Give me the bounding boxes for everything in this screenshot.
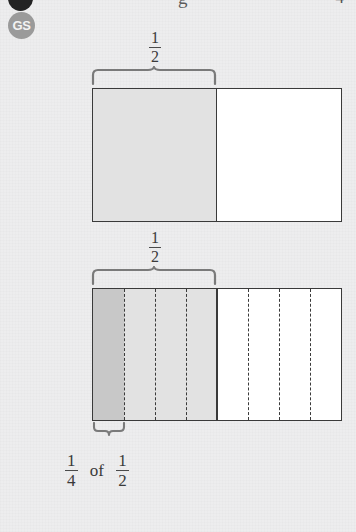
divider-dashed-4 (248, 289, 249, 420)
diagram-2-brace (91, 266, 219, 286)
fraction-denominator: 4 (65, 471, 78, 489)
diagram-1-brace (91, 66, 219, 86)
fraction-numerator: 1 (149, 230, 161, 248)
fraction-numerator: 1 (65, 452, 78, 471)
diagram-2-highlighted-quarter (93, 289, 124, 420)
divider-dashed-5 (279, 289, 280, 420)
fraction-one-half: 1 2 (149, 30, 161, 65)
divider-dashed-2 (155, 289, 156, 420)
fraction-numerator: 1 (116, 452, 129, 471)
diagram-2-quarter-brace (92, 422, 126, 438)
diagram-1-brace-label: 1 2 (93, 30, 217, 65)
gs-badge: GS (8, 12, 35, 39)
caption: 1 4 of 1 2 (65, 452, 129, 489)
diagram-1-shaded-half (93, 89, 217, 221)
page-number: 4 (336, 0, 345, 8)
fraction-one-half: 1 2 (149, 230, 161, 265)
caption-connector: of (82, 461, 112, 481)
diagram-2-rectangle (92, 288, 342, 421)
divider-solid-midline (217, 289, 218, 420)
divider-dashed-6 (310, 289, 311, 420)
divider-dashed-3 (186, 289, 187, 420)
diagram-2-brace-label: 1 2 (93, 230, 217, 265)
fraction-numerator: 1 (149, 30, 161, 48)
diagram-1-rectangle (92, 88, 342, 222)
fraction-denominator: 2 (149, 248, 161, 265)
fraction-denominator: 2 (149, 48, 161, 65)
fraction-denominator: 2 (116, 471, 129, 489)
partial-heading-text: g (178, 0, 188, 9)
caption-fraction-one-quarter: 1 4 (65, 452, 78, 489)
divider-dashed-1 (124, 289, 125, 420)
caption-fraction-one-half: 1 2 (116, 452, 129, 489)
